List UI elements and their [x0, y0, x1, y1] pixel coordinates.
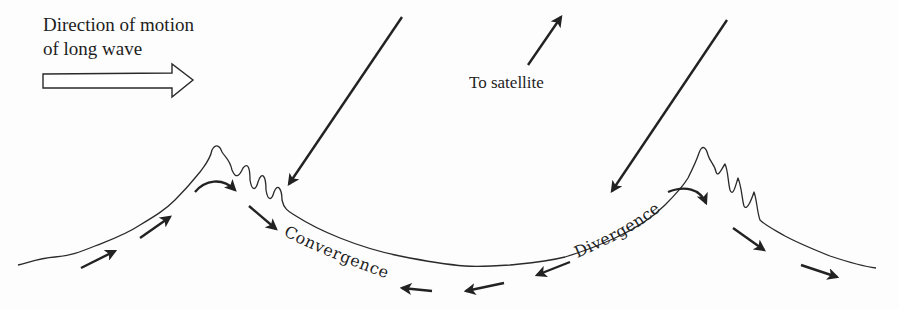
wave-surface — [18, 146, 876, 268]
curved-flow-arrow-icon — [195, 182, 235, 192]
flow-arrow-icon — [801, 265, 837, 277]
flow-arrow-icon — [402, 288, 432, 291]
flow-arrow-icon — [466, 283, 504, 291]
flow-arrow-icon — [81, 251, 115, 268]
satellite-ray-icon — [528, 17, 561, 65]
direction-label-line1: Direction of motion — [43, 14, 194, 35]
to-satellite-label: To satellite — [469, 73, 544, 92]
direction-label-line2: of long wave — [43, 38, 142, 59]
hollow-right-arrow-icon — [43, 64, 193, 97]
incident-ray-left-icon — [289, 17, 402, 184]
flow-arrow-icon — [537, 262, 570, 275]
flow-arrow-icon — [249, 206, 276, 229]
convergence-label: Convergence — [281, 222, 392, 283]
diagram-canvas: Direction of motion of long wave To sate… — [0, 0, 899, 309]
divergence-label: Divergence — [571, 198, 664, 261]
incident-ray-right-icon — [612, 20, 727, 191]
flow-arrow-icon — [733, 228, 764, 250]
long-wave-diagram: Direction of motion of long wave To sate… — [0, 0, 899, 309]
flow-arrow-icon — [140, 217, 170, 238]
